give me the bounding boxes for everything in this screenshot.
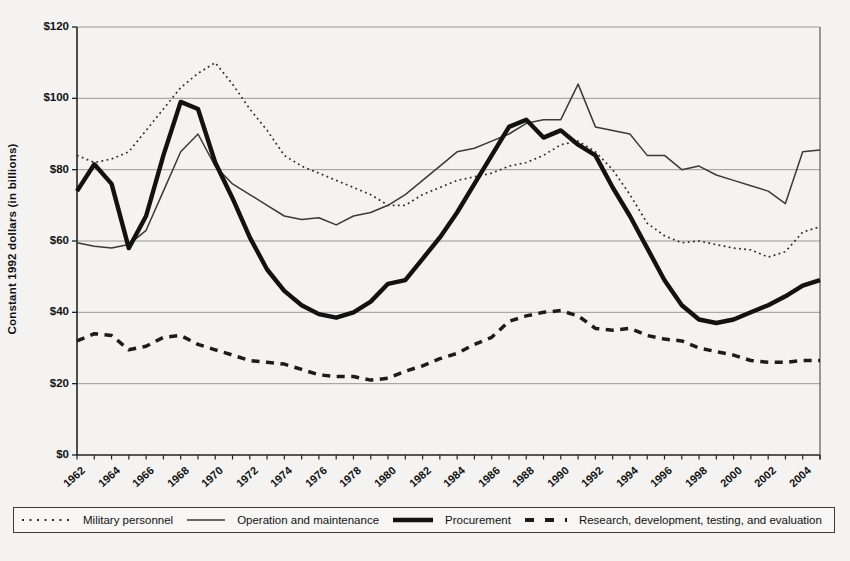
y-tick-label-40: $40 (23, 305, 69, 317)
legend-label-operation-and-maintenance: Operation and maintenance (237, 514, 379, 526)
legend-label-rdte: Research, development, testing, and eval… (579, 514, 822, 526)
legend-item-rdte: Research, development, testing, and eval… (524, 514, 822, 526)
chart-legend: Military personnel Operation and mainten… (13, 507, 835, 533)
legend-item-procurement: Procurement (392, 514, 511, 526)
y-tick-label-60: $60 (23, 234, 69, 246)
legend-item-operation-and-maintenance: Operation and maintenance (186, 514, 379, 526)
y-tick-label-80: $80 (23, 163, 69, 175)
y-tick-label-100: $100 (23, 91, 69, 103)
legend-label-military-personnel: Military personnel (83, 514, 173, 526)
legend-label-procurement: Procurement (445, 514, 511, 526)
thick-dashed-line-icon (524, 516, 568, 524)
dotted-line-icon (20, 516, 72, 524)
legend-item-military-personnel: Military personnel (20, 514, 173, 526)
defense-spending-line-chart: Constant 1992 dollars (in billions) $120… (0, 0, 850, 561)
y-tick-label-20: $20 (23, 377, 69, 389)
y-tick-label-120: $120 (23, 20, 69, 32)
y-axis-title: Constant 1992 dollars (in billions) (6, 69, 18, 409)
series-procurement (77, 102, 820, 323)
thick-line-icon (392, 516, 434, 524)
y-tick-label-0: $0 (23, 448, 69, 460)
thin-line-icon (186, 516, 226, 524)
